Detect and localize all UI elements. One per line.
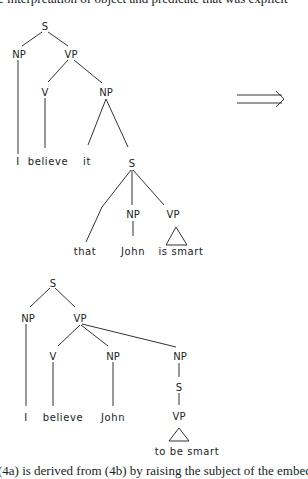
node-NP: NP bbox=[12, 49, 26, 60]
node-V: V bbox=[42, 87, 49, 98]
leaf-word: it bbox=[83, 156, 91, 167]
double-right-arrow-icon bbox=[237, 91, 284, 107]
node-VP: VP bbox=[167, 209, 180, 220]
edge bbox=[88, 99, 106, 145]
node-NP: NP bbox=[99, 87, 113, 98]
node-NP: NP bbox=[126, 209, 140, 220]
edge bbox=[30, 288, 50, 307]
leaf-word: John bbox=[100, 412, 125, 423]
edge bbox=[102, 170, 131, 207]
edge bbox=[133, 170, 164, 205]
edge bbox=[81, 325, 108, 346]
leaf-word: that bbox=[74, 246, 97, 257]
node-S: S bbox=[176, 382, 182, 393]
leaf-word: believe bbox=[43, 412, 83, 423]
node-NP: NP bbox=[173, 351, 187, 362]
leaf-word: believe bbox=[28, 156, 68, 167]
leaf-word: I bbox=[24, 412, 28, 423]
edge bbox=[48, 32, 68, 46]
edge bbox=[22, 32, 42, 46]
edge bbox=[55, 288, 75, 307]
leaf-word: to be smart bbox=[155, 446, 220, 457]
tree-after: S NP VP V NP NP S VP I believe John to b… bbox=[21, 278, 219, 457]
node-NP: NP bbox=[106, 351, 120, 362]
edge bbox=[86, 207, 102, 242]
triangle-icon bbox=[169, 428, 189, 441]
node-S: S bbox=[129, 158, 135, 169]
edge bbox=[74, 60, 102, 83]
node-VP: VP bbox=[173, 411, 186, 422]
edge bbox=[106, 99, 128, 147]
edge bbox=[82, 324, 176, 347]
node-V: V bbox=[50, 351, 57, 362]
edge bbox=[58, 325, 80, 346]
node-S: S bbox=[42, 21, 48, 32]
triangle-icon bbox=[166, 227, 187, 245]
leaf-word: is smart bbox=[158, 246, 203, 257]
tree-before: S NP VP V NP S NP VP I believe it that J… bbox=[12, 21, 203, 257]
edge bbox=[48, 60, 68, 82]
node-VP: VP bbox=[74, 313, 87, 324]
node-VP: VP bbox=[65, 49, 78, 60]
node-NP: NP bbox=[21, 313, 35, 324]
leaf-word: John bbox=[120, 246, 145, 257]
node-S: S bbox=[50, 278, 56, 289]
leaf-word: I bbox=[16, 156, 20, 167]
